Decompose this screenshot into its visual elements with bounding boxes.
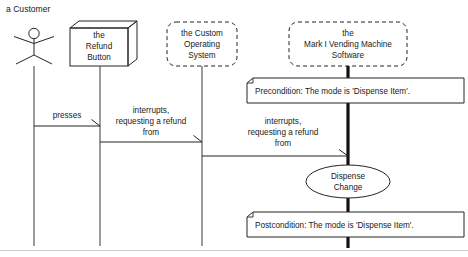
note-precondition-text: Precondition: The mode is 'Dispense Item…: [255, 87, 410, 96]
message-interrupts-os-line-3: from: [143, 128, 160, 137]
actor-customer: a Customer: [6, 4, 54, 246]
message-interrupts-os-line-2: requesting a refund: [116, 117, 187, 126]
refund-button-line-3: Button: [87, 53, 111, 62]
note-postcondition: Postcondition: The mode is 'Dispense Ite…: [247, 212, 464, 237]
vending-software-line-1: the: [342, 29, 354, 38]
participant-custom-operating-system: the Custom Operating System: [167, 22, 237, 246]
note-postcondition-text: Postcondition: The mode is 'Dispense Ite…: [255, 221, 414, 230]
vending-software-line-2: Mark I Vending Machine: [304, 40, 392, 49]
uml-sequence-diagram: a Customer the Refund Button: [0, 0, 468, 257]
note-precondition: Precondition: The mode is 'Dispense Item…: [247, 78, 464, 103]
actor-label: a Customer: [6, 4, 51, 14]
custom-os-line-1: the Custom: [181, 29, 223, 38]
message-interrupts-software: interrupts, requesting a refund from: [202, 117, 348, 156]
message-presses-label: presses: [53, 111, 82, 120]
action-dispense-change: Dispense Change: [306, 165, 390, 198]
message-presses: presses: [34, 111, 100, 126]
message-interrupts-software-line-1: interrupts,: [265, 117, 301, 126]
message-interrupts-software-line-3: from: [275, 139, 292, 148]
vending-software-line-3: Software: [332, 51, 365, 60]
message-interrupts-os-line-1: interrupts,: [133, 106, 169, 115]
stick-figure-actor-icon: [14, 28, 54, 64]
custom-os-line-3: System: [188, 51, 215, 60]
refund-button-line-1: the: [93, 31, 105, 40]
message-interrupts-software-line-2: requesting a refund: [248, 128, 319, 137]
refund-button-line-2: Refund: [86, 42, 113, 51]
dispense-change-line-1: Dispense: [331, 172, 366, 181]
participant-refund-button: the Refund Button: [70, 21, 137, 246]
dispense-change-line-2: Change: [334, 183, 363, 192]
message-interrupts-os: interrupts, requesting a refund from: [100, 106, 202, 142]
custom-os-line-2: Operating: [184, 40, 220, 49]
